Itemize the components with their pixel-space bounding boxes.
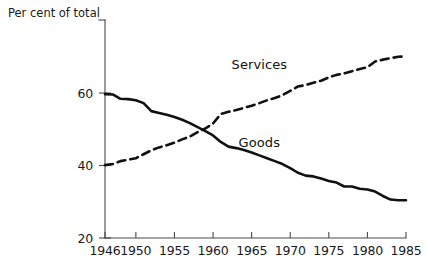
x-tick-label-1980: 1980 <box>352 243 383 258</box>
chart-container: Per cent of total 204060 194619501955196… <box>0 0 427 274</box>
y-tick-label-60: 60 <box>77 86 93 101</box>
x-tick-label-1960: 1960 <box>198 243 229 258</box>
x-tick-label-1965: 1965 <box>236 243 267 258</box>
y-tick-label-40: 40 <box>77 158 93 173</box>
series-group <box>105 56 406 200</box>
x-tick-label-1946: 1946 <box>89 243 120 258</box>
x-tick-label-1955: 1955 <box>159 243 190 258</box>
series-label-goods: Goods <box>239 135 281 150</box>
series-label-services: Services <box>232 57 288 72</box>
x-tick-label-1970: 1970 <box>275 243 306 258</box>
line-chart-goods-services: Per cent of total 204060 194619501955196… <box>0 0 427 274</box>
x-axis-ticks: 194619501955196019651970197519801985 <box>89 232 421 258</box>
y-axis-caption: Per cent of total <box>8 6 100 20</box>
x-tick-label-1950: 1950 <box>120 243 151 258</box>
x-tick-label-1985: 1985 <box>390 243 421 258</box>
x-tick-label-1975: 1975 <box>313 243 344 258</box>
